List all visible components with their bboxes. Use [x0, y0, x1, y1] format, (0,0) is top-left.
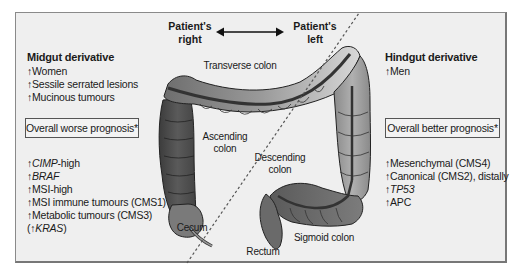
hindgut-molecular-item: ↑Canonical (CMS2), distally [385, 170, 509, 183]
patient-left-line1: Patient's [285, 20, 345, 33]
hindgut-molecular-item: ↑Mesenchymal (CMS4) [385, 157, 490, 170]
midgut-molecular-item: ↑BRAF [27, 170, 59, 183]
midgut-molecular-item: ↑MSI immune tumours (CMS1) [27, 196, 166, 209]
item-suffix: ) [63, 222, 66, 234]
worse-prognosis-box: Overall worse prognosis* [25, 118, 139, 138]
descending-line1: Descending [250, 152, 310, 164]
midgut-molecular-item: ↑Metabolic tumours (CMS3) [27, 209, 152, 222]
ascending-colon-label: Ascending colon [195, 131, 255, 155]
item-text: Canonical (CMS2), distally [390, 170, 509, 182]
item-text: Metabolic tumours (CMS3) [32, 209, 152, 221]
descending-colon-label: Descending colon [250, 152, 310, 176]
better-prognosis-box: Overall better prognosis* [385, 118, 500, 138]
midgut-feature: ↑Mucinous tumours [27, 91, 115, 104]
hindgut-molecular-item: ↑TP53 [385, 183, 414, 196]
ascending-line1: Ascending [195, 131, 255, 143]
transverse-colon-label: Transverse colon [190, 60, 290, 72]
midgut-feature: ↑Women [27, 65, 67, 78]
item-text: Mesenchymal (CMS4) [390, 157, 490, 169]
rectum-label: Rectum [238, 246, 288, 258]
item-text: TP53 [390, 183, 414, 195]
midgut-feature: ↑Sessile serrated lesions [27, 78, 138, 91]
item-text: MSI immune tumours (CMS1) [32, 196, 166, 208]
hindgut-molecular-item: ↑APC [385, 196, 411, 209]
sigmoid-colon-label: Sigmoid colon [284, 232, 364, 244]
hindgut-feature: ↑Men [385, 65, 410, 78]
colon-illustration [0, 0, 521, 278]
cecum-label: Cecum [172, 222, 212, 234]
item-suffix: -high [58, 157, 80, 169]
patient-left-label: Patient's left [285, 20, 345, 46]
patient-right-line2: right [160, 33, 220, 46]
item-text: KRAS [35, 222, 63, 234]
ascending-line2: colon [195, 143, 255, 155]
patient-left-line2: left [285, 33, 345, 46]
item-text: APC [390, 196, 411, 208]
item-text: MSI-high [32, 183, 72, 195]
transverse-colon-shape [164, 46, 360, 114]
patient-right-label: Patient's right [160, 20, 220, 46]
descending-line2: colon [250, 164, 310, 176]
midgut-title: Midgut derivative [27, 51, 114, 64]
double-headed-arrow-icon [216, 28, 284, 37]
patient-right-line1: Patient's [160, 20, 220, 33]
item-text: CIMP [32, 157, 57, 169]
item-text: BRAF [32, 170, 59, 182]
midgut-molecular-item: (↑KRAS) [27, 222, 66, 235]
midgut-molecular-item: ↑MSI-high [27, 183, 72, 196]
hindgut-title: Hindgut derivative [385, 51, 477, 64]
midgut-molecular-item: ↑CIMP-high [27, 157, 80, 170]
